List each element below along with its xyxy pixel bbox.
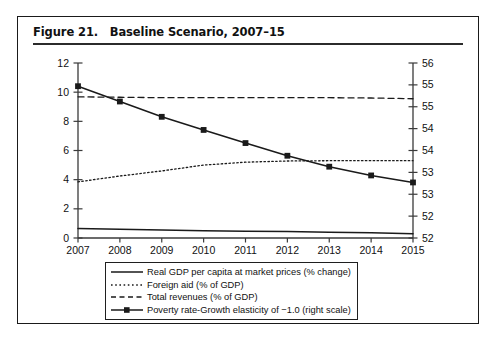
series-marker-3 — [326, 164, 332, 170]
x-axis-tick-label: 2012 — [276, 244, 300, 256]
right-axis-tick-label: 54 — [422, 122, 434, 134]
right-axis-tick-label: 55 — [422, 78, 434, 90]
chart-plot-area: 0246810125252535354545555562007200820092… — [17, 44, 479, 269]
right-axis-tick-label: 54 — [422, 144, 434, 156]
series-marker-3 — [284, 153, 290, 159]
legend-item-real-gdp: Real GDP per capita at market prices (% … — [110, 266, 351, 279]
x-axis-tick-label: 2008 — [108, 244, 132, 256]
left-axis-tick-label: 4 — [63, 173, 69, 185]
x-axis-tick-label: 2010 — [192, 244, 216, 256]
legend-item-label: Real GDP per capita at market prices (% … — [147, 266, 351, 279]
x-axis-tick-label: 2011 — [234, 244, 257, 256]
series-marker-3 — [117, 99, 123, 105]
legend-item-label: Poverty rate-Growth elasticity of −1.0 (… — [147, 304, 351, 317]
left-axis-tick-label: 2 — [63, 202, 69, 214]
dotted-line-key — [110, 279, 144, 291]
series-line-2 — [78, 97, 413, 99]
legend-item-foreign-aid: Foreign aid (% of GDP) — [110, 279, 351, 292]
series-marker-3 — [201, 127, 207, 133]
series-marker-3 — [159, 114, 165, 120]
chart-legend: Real GDP per capita at market prices (% … — [105, 262, 358, 320]
series-line-3 — [78, 86, 413, 182]
right-axis-tick-label: 53 — [422, 188, 434, 200]
page-title: Figure 21. Baseline Scenario, 2007–15 — [33, 25, 285, 39]
series-marker-3 — [410, 180, 416, 186]
legend-item-label: Foreign aid (% of GDP) — [147, 279, 244, 292]
legend-item-total-revenues: Total revenues (% of GDP) — [110, 291, 351, 304]
line-chart: 0246810125252535354545555562007200820092… — [17, 44, 479, 269]
right-axis-tick-label: 52 — [422, 210, 434, 222]
series-marker-3 — [368, 173, 374, 179]
solid-square-marker-key — [110, 304, 144, 316]
right-axis-tick-label: 56 — [422, 57, 434, 69]
dashed-line-key — [110, 291, 144, 303]
legend-item-poverty-rate: Poverty rate-Growth elasticity of −1.0 (… — [110, 304, 351, 317]
right-axis-tick-label: 53 — [422, 166, 434, 178]
left-axis-tick-label: 6 — [63, 144, 69, 156]
left-axis-tick-label: 10 — [57, 86, 69, 98]
legend-box: Real GDP per capita at market prices (% … — [105, 262, 358, 320]
x-axis-tick-label: 2015 — [401, 244, 425, 256]
left-axis-tick-label: 0 — [63, 232, 69, 244]
left-axis-tick-label: 12 — [57, 57, 69, 69]
left-axis-tick-label: 8 — [63, 115, 69, 127]
legend-item-label: Total revenues (% of GDP) — [147, 291, 258, 304]
series-marker-3 — [243, 140, 249, 146]
solid-line-key — [110, 266, 144, 278]
right-axis-tick-label: 52 — [422, 232, 434, 244]
x-axis-tick-label: 2007 — [66, 244, 90, 256]
x-axis-tick-label: 2009 — [150, 244, 174, 256]
x-axis-tick-label: 2013 — [318, 244, 342, 256]
right-axis-tick-label: 55 — [422, 100, 434, 112]
series-line-0 — [78, 229, 413, 234]
series-marker-3 — [75, 83, 81, 89]
x-axis-tick-label: 2014 — [359, 244, 383, 256]
series-line-1 — [78, 161, 413, 182]
